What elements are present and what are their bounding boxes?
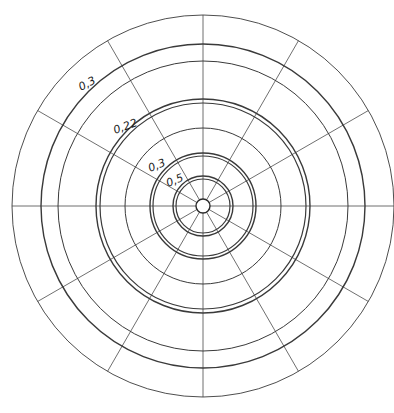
center-hub — [196, 199, 210, 213]
ring-label-outer: 0,3 — [76, 74, 98, 94]
ring-label-innermost: 0,5 — [164, 171, 185, 190]
spoke-line-300 — [207, 212, 299, 371]
ring-label-middle: 0,22 — [112, 116, 139, 137]
spoke-line-330 — [209, 210, 368, 302]
spoke-line-240 — [108, 212, 200, 371]
spoke-line-210 — [38, 210, 197, 302]
spoke-line-30 — [209, 111, 368, 203]
polar-grid-diagram: 0,3 0,22 0,3 0,5 — [0, 0, 394, 413]
spoke-line-60 — [207, 41, 299, 200]
ring-label-inner: 0,3 — [146, 156, 167, 175]
